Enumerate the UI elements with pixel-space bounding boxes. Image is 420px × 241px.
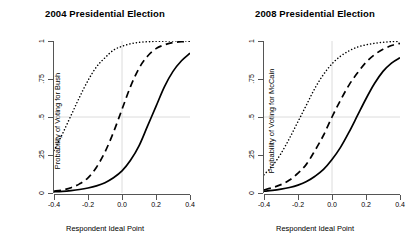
panel-2004: 2004 Presidential Election Probability o…: [0, 0, 210, 241]
x-tick-label: -0.4: [48, 201, 60, 208]
y-tick-label: .5: [38, 114, 45, 120]
x-tick-label: 0.0: [327, 201, 337, 208]
x-tick-label: 0.0: [117, 201, 127, 208]
y-tick-label: 1: [248, 39, 255, 43]
curves-svg-2008: [264, 41, 400, 193]
x-tick-label: -0.2: [292, 201, 304, 208]
x-tick-label: 0.2: [361, 201, 371, 208]
curves-svg-2004: [54, 41, 190, 193]
y-tick-label: .25: [38, 150, 45, 160]
x-tick-label: -0.2: [82, 201, 94, 208]
x-axis-label: Respondent Ideal Point: [0, 224, 210, 233]
plot-area-2008: [264, 41, 400, 193]
x-tick-label: 0.4: [395, 201, 405, 208]
y-tick-label: .75: [38, 74, 45, 84]
x-axis-line: [54, 194, 190, 195]
panel-2008: 2008 Presidential Election Probability o…: [210, 0, 420, 241]
x-tick-label: 0.2: [151, 201, 161, 208]
y-tick-label: 0: [38, 191, 45, 195]
y-tick-label: .5: [248, 114, 255, 120]
figure-two-panel-logistic-curves: 2004 Presidential Election Probability o…: [0, 0, 420, 241]
y-tick-label: 0: [248, 191, 255, 195]
x-axis-line: [264, 194, 400, 195]
page-title: 2008 Presidential Election: [210, 8, 420, 19]
page-title: 2004 Presidential Election: [0, 8, 210, 19]
plot-area-2004: [54, 41, 190, 193]
y-tick-label: 1: [38, 39, 45, 43]
y-tick-label: .25: [248, 150, 255, 160]
y-tick-label: .75: [248, 74, 255, 84]
x-tick-label: -0.4: [258, 201, 270, 208]
x-axis-label: Respondent Ideal Point: [210, 224, 420, 233]
x-tick-label: 0.4: [185, 201, 195, 208]
